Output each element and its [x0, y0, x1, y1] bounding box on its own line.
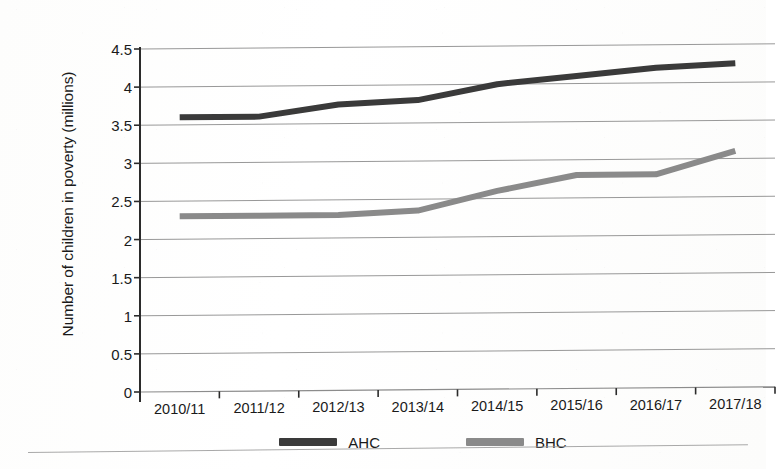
x-axis-tick-label: 2014/15 [471, 398, 523, 414]
x-axis-tick-labels: 2010/112011/122012/132013/142014/152015/… [140, 397, 775, 423]
y-axis-tick-label: 2 [124, 231, 132, 248]
x-axis-tick-label: 2016/17 [630, 397, 682, 413]
y-axis-tick-label: 1 [124, 307, 132, 324]
legend-swatch-icon [466, 438, 524, 446]
x-axis-tick-label: 2017/18 [709, 396, 761, 412]
y-axis-tick-label: 4.5 [111, 41, 132, 58]
series-line-bhc [180, 151, 736, 217]
legend-swatch-icon [279, 438, 337, 446]
y-axis-tick-label: 3 [124, 155, 132, 172]
y-axis-tick-label: 0.5 [111, 345, 132, 362]
line-chart: Number of children in poverty (millions)… [40, 16, 726, 453]
legend-label: BHC [535, 434, 567, 451]
chart-legend: AHCBHC [40, 428, 780, 456]
y-axis-tick-label: 1.5 [111, 269, 132, 286]
x-axis-tick-label: 2013/14 [392, 399, 444, 415]
x-axis-tick-label: 2010/11 [154, 401, 205, 417]
x-axis-tick-label: 2011/12 [233, 400, 284, 416]
series-line-ahc [180, 63, 736, 117]
y-axis-tick-label: 4 [124, 79, 132, 96]
data-series-layer [140, 49, 775, 392]
y-axis-tick-label: 3.5 [111, 117, 132, 134]
plot-area [140, 49, 775, 392]
y-axis-tick-label: 2.5 [111, 193, 132, 210]
x-axis-tick-label: 2012/13 [312, 399, 364, 415]
y-axis-tick-labels: 00.511.522.533.544.5 [84, 49, 132, 392]
y-axis-tick-label: 0 [124, 384, 132, 401]
x-axis-tick-label: 2015/16 [550, 397, 602, 413]
